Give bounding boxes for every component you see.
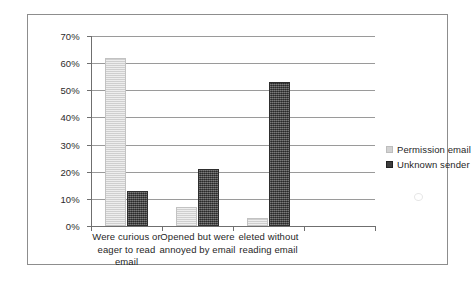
x-axis-tick [375, 226, 376, 231]
legend-label: Unknown sender [397, 159, 470, 170]
category-label: Opened but were annoyed by email [158, 231, 237, 256]
legend-swatch-icon [386, 161, 393, 168]
y-axis-label: 0% [28, 221, 80, 232]
y-axis-label: 70% [28, 31, 80, 42]
legend-label: Permission email [397, 144, 471, 155]
y-axis-label: 30% [28, 139, 80, 150]
bar-unknown-sender [198, 169, 219, 226]
y-axis-label: 20% [28, 166, 80, 177]
y-axis-label: 60% [28, 58, 80, 69]
bar-permission-email [176, 207, 197, 226]
category-label: Were curious or eager to read email [87, 231, 166, 269]
y-axis-label: 50% [28, 85, 80, 96]
bar-unknown-sender [127, 191, 148, 226]
plot-area [91, 36, 375, 226]
legend-item[interactable]: Unknown sender [386, 159, 470, 170]
bar-permission-email [247, 218, 268, 226]
y-axis-label: 40% [28, 112, 80, 123]
legend-swatch-icon [386, 146, 393, 153]
scan-artifact [414, 193, 423, 201]
y-axis-label: 10% [28, 193, 80, 204]
chart-frame: 0%10%20%30%40%50%60%70% Were curious or … [27, 14, 448, 265]
chart-legend: Permission emailUnknown sender [386, 144, 470, 174]
category-label: eleted without reading email [229, 231, 308, 256]
bar-unknown-sender [269, 82, 290, 226]
bar-permission-email [105, 58, 126, 226]
legend-item[interactable]: Permission email [386, 144, 470, 155]
